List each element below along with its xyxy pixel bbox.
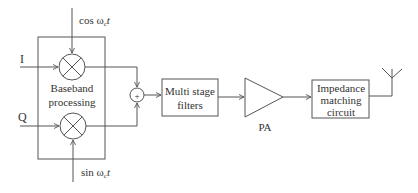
matching-label-line1: Impedance — [317, 82, 365, 94]
pa-label: PA — [258, 121, 271, 133]
mixer-i-icon — [59, 54, 85, 80]
i-input-label: I — [20, 52, 24, 66]
matching-label-line2: matching — [321, 94, 362, 106]
diagram-svg: cos ωct sin ωct I Q Baseband processing … — [0, 0, 418, 193]
cos-lo-label: cos ωct — [79, 14, 111, 28]
filter-label-line2: filters — [177, 99, 203, 111]
matching-to-antenna-line — [369, 78, 392, 96]
pa-amplifier-icon — [245, 78, 283, 117]
antenna-icon — [382, 68, 402, 78]
filter-label-line1: Multi stage — [165, 85, 215, 97]
matching-label-line3: circuit — [327, 106, 355, 118]
baseband-label-line2: processing — [48, 96, 96, 108]
mixer-q-icon — [60, 113, 86, 139]
q-input-label: Q — [18, 110, 27, 124]
baseband-label-line1: Baseband — [51, 82, 94, 94]
summer-symbol: + — [134, 91, 139, 101]
sin-lo-label: sin ωct — [81, 166, 111, 180]
transmitter-diagram: cos ωct sin ωct I Q Baseband processing … — [0, 0, 418, 193]
